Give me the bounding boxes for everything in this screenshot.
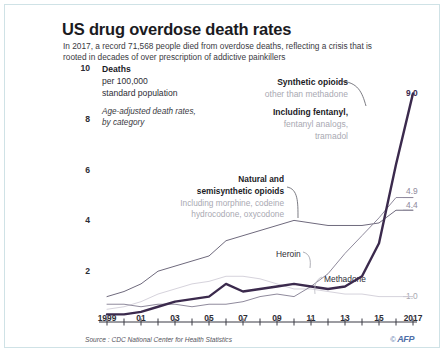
leader-natural (287, 187, 298, 218)
series-line-natural (107, 210, 413, 296)
leader-synthetic (340, 81, 366, 106)
series-line-heroin (107, 198, 413, 307)
infographic-frame: US drug overdose death rates In 2017, a … (4, 4, 440, 348)
series-line-synthetic (107, 93, 413, 314)
chart-canvas (6, 6, 442, 350)
series-line-methadone (107, 276, 413, 309)
leader-heroin (303, 252, 310, 268)
infographic-body: US drug overdose death rates In 2017, a … (6, 6, 438, 346)
